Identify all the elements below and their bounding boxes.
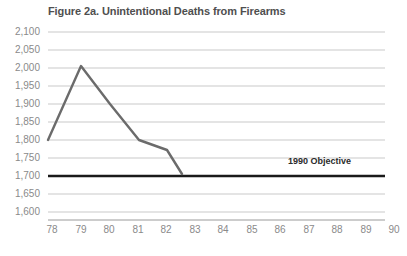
x-tick-82: 82 [154, 224, 178, 235]
y-tick-1850: 1,850 [0, 116, 40, 127]
y-tick-1950: 1,950 [0, 80, 40, 91]
y-tick-1600: 1,600 [0, 206, 40, 217]
gridlines [48, 32, 385, 212]
objective-line-label: 1990 Objective [288, 156, 351, 166]
y-tick-1900: 1,900 [0, 98, 40, 109]
x-tick-84: 84 [211, 224, 235, 235]
y-tick-1800: 1,800 [0, 134, 40, 145]
x-tick-80: 80 [97, 224, 121, 235]
x-tick-86: 86 [268, 224, 292, 235]
y-tick-2050: 2,050 [0, 44, 40, 55]
x-tick-90: 90 [382, 224, 406, 235]
y-tick-1700: 1,700 [0, 170, 40, 181]
x-tick-87: 87 [297, 224, 321, 235]
figure-container: Figure 2a. Unintentional Deaths from Fir… [0, 0, 407, 256]
x-tick-79: 79 [69, 224, 93, 235]
x-tick-85: 85 [240, 224, 264, 235]
x-tick-78: 78 [40, 224, 64, 235]
x-tick-83: 83 [183, 224, 207, 235]
y-tick-1650: 1,650 [0, 188, 40, 199]
x-tick-89: 89 [354, 224, 378, 235]
y-tick-2000: 2,000 [0, 62, 40, 73]
chart-plot-area [0, 0, 407, 256]
y-tick-2100: 2,100 [0, 26, 40, 37]
x-tick-81: 81 [126, 224, 150, 235]
y-tick-1750: 1,750 [0, 152, 40, 163]
x-tick-88: 88 [325, 224, 349, 235]
